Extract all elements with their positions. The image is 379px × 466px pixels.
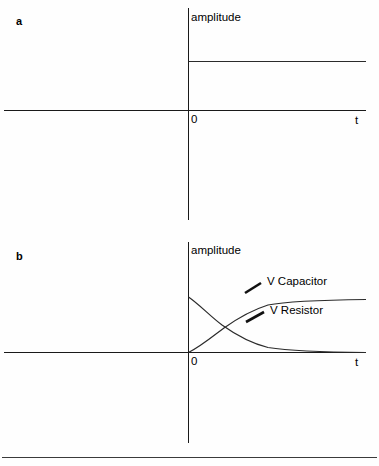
panel-b-x-axis-title: t: [355, 357, 358, 369]
panel-b-y-axis-title: amplitude: [191, 245, 241, 257]
panel-b-plot: [0, 233, 379, 466]
panel-b-origin-label: 0: [191, 356, 197, 368]
figure-rc-circuit-waveforms: a amplitude 0 t b: [0, 0, 379, 466]
figure-bottom-rule: [2, 457, 377, 458]
panel-a-plot: [0, 0, 379, 233]
panel-a-x-axis-title: t: [355, 115, 358, 127]
panel-b: b amplitude V Capacitor V Resistor 0 t: [0, 233, 379, 466]
panel-a: a amplitude 0 t: [0, 0, 379, 233]
panel-b-pointer-v-capacitor: [245, 283, 261, 293]
series-label-v-resistor: V Resistor: [270, 305, 323, 317]
panel-a-y-axis-title: amplitude: [191, 12, 241, 24]
panel-a-origin-label: 0: [191, 114, 197, 126]
series-label-v-capacitor: V Capacitor: [267, 276, 327, 288]
